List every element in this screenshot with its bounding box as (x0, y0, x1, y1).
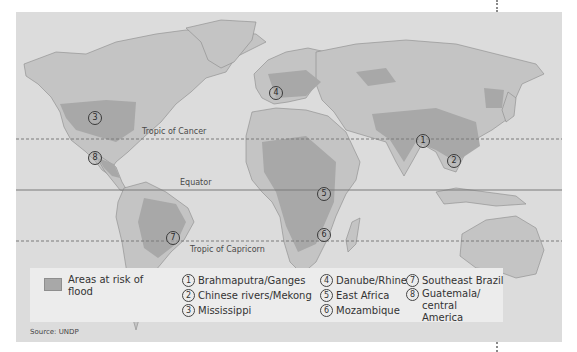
marker-3-mississippi: 3 (88, 111, 102, 125)
marker-6-mozambique: 6 (317, 228, 331, 242)
flood-manchuria (484, 88, 504, 108)
number-badge: 4 (320, 274, 333, 287)
legend: Areas at risk of flood 1 Brahmaputra/Gan… (30, 268, 503, 322)
legend-item: 1 Brahmaputra/Ganges (182, 273, 312, 288)
marker-1-brahmaputra: 1 (416, 134, 430, 148)
number-badge: 1 (182, 274, 195, 287)
page-margin-line-top (496, 0, 498, 12)
source-caption: Source: UNDP (30, 328, 79, 336)
legend-column-1: 1 Brahmaputra/Ganges 2 Chinese rivers/Me… (182, 273, 312, 318)
number-badge: 3 (182, 304, 195, 317)
number-badge: 5 (320, 289, 333, 302)
marker-5-east-africa: 5 (317, 187, 331, 201)
legend-item-label: Mozambique (336, 305, 400, 316)
indonesia (436, 188, 526, 206)
number-badge: 6 (320, 304, 333, 317)
legend-item-label: Mississippi (198, 305, 251, 316)
tropic-of-cancer-label: Tropic of Cancer (142, 127, 206, 136)
legend-item-label: Chinese rivers/Mekong (198, 290, 312, 301)
number-badge: 8 (406, 288, 419, 301)
legend-item-label: East Africa (336, 290, 389, 301)
legend-item-label: Guatemala/ central America (422, 288, 498, 324)
legend-item: 6 Mozambique (320, 303, 407, 318)
legend-item: 5 East Africa (320, 288, 407, 303)
legend-key-label: Areas at risk of flood (68, 274, 148, 298)
legend-item-label: Danube/Rhine (336, 275, 407, 286)
marker-8-guatemala: 8 (88, 151, 102, 165)
marker-2-mekong: 2 (447, 154, 461, 168)
world-flood-risk-map: Tropic of Cancer Equator Tropic of Capri… (16, 12, 562, 342)
legend-item-label: Brahmaputra/Ganges (198, 275, 305, 286)
page-margin-line-bottom (496, 342, 498, 352)
legend-column-3: 7 Southeast Brazil 8 Guatemala/ central … (406, 273, 504, 303)
number-badge: 7 (406, 274, 419, 287)
legend-item: 8 Guatemala/ central America (406, 288, 504, 303)
legend-column-2: 4 Danube/Rhine 5 East Africa 6 Mozambiqu… (320, 273, 407, 318)
marker-7-southeast-brazil: 7 (166, 231, 180, 245)
legend-item: 7 Southeast Brazil (406, 273, 504, 288)
marker-4-danube-rhine: 4 (269, 86, 283, 100)
flood-risk-swatch (44, 278, 62, 291)
equator-label: Equator (180, 178, 211, 187)
number-badge: 2 (182, 289, 195, 302)
madagascar (346, 218, 360, 252)
legend-item: 4 Danube/Rhine (320, 273, 407, 288)
legend-item: 2 Chinese rivers/Mekong (182, 288, 312, 303)
legend-item: 3 Mississippi (182, 303, 312, 318)
tropic-of-capricorn-label: Tropic of Capricorn (190, 245, 265, 254)
legend-item-label: Southeast Brazil (422, 275, 504, 286)
